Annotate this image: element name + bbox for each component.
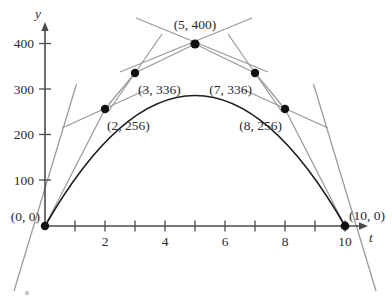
y-axis-arrow-icon — [41, 22, 48, 31]
y-tick-label-200: 200 — [14, 127, 35, 142]
y-tick-label-100: 100 — [14, 173, 35, 188]
data-point-7-336 — [251, 69, 259, 77]
point-label-7-336: (7, 336) — [209, 82, 252, 97]
tangent-lines-group — [14, 18, 376, 291]
t-tick-label-4: 4 — [162, 234, 169, 249]
point-label-0-0: (0, 0) — [11, 209, 40, 224]
data-point-2-256 — [101, 105, 109, 113]
tangent-line-t10 — [314, 84, 377, 291]
secant-chord-2-3 — [105, 73, 135, 109]
secant-chords-group — [45, 44, 345, 226]
y-axis-label: y — [33, 6, 41, 21]
secant-chord-0-2 — [45, 109, 105, 226]
secant-chord-8-10 — [285, 109, 345, 226]
parabola-plot: y t 400 300 200 100 2 4 6 8 10 (0, 0) (2… — [0, 0, 392, 301]
t-tick-label-6: 6 — [222, 234, 229, 249]
secant-chord-7-8 — [255, 73, 285, 109]
point-label-3-336: (3, 336) — [138, 82, 181, 97]
y-tick-label-400: 400 — [14, 36, 35, 51]
t-tick-label-2: 2 — [102, 234, 109, 249]
t-axis-arrow-icon — [359, 222, 368, 229]
secant-chord-5-7 — [195, 44, 255, 73]
data-point-5-400 — [190, 39, 199, 48]
axes-group — [41, 22, 368, 230]
data-point-3-336 — [131, 69, 139, 77]
data-point-8-256 — [281, 105, 289, 113]
secant-chord-3-5 — [135, 44, 195, 73]
t-tick-label-8: 8 — [282, 234, 289, 249]
point-label-2-256: (2, 256) — [107, 118, 150, 133]
point-label-8-256: (8, 256) — [239, 118, 282, 133]
stray-mark — [25, 291, 29, 295]
t-tick-label-10: 10 — [338, 234, 352, 249]
data-point-0-0 — [41, 222, 49, 230]
point-label-10-0: (10, 0) — [349, 208, 385, 223]
figure-container: y t 400 300 200 100 2 4 6 8 10 (0, 0) (2… — [0, 0, 392, 301]
data-points-group — [41, 39, 350, 230]
y-tick-label-300: 300 — [14, 82, 35, 97]
point-label-5-400: (5, 400) — [174, 17, 217, 32]
t-axis-label: t — [369, 230, 374, 245]
